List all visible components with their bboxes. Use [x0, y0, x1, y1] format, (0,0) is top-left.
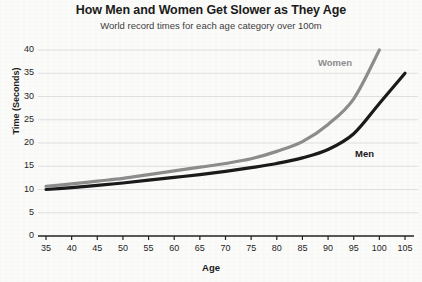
series-line-women	[46, 50, 379, 186]
series-line-men	[46, 73, 405, 189]
plot-area	[0, 0, 422, 282]
series-label-women: Women	[318, 57, 352, 68]
series-label-men: Men	[355, 148, 374, 159]
line-chart: How Men and Women Get Slower as They Age…	[0, 0, 422, 282]
